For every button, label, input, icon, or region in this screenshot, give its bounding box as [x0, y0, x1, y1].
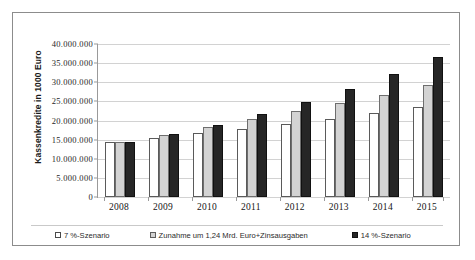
x-axis-tick-mark [412, 197, 413, 201]
bar-group [281, 44, 311, 197]
x-axis-tick-mark [192, 197, 193, 201]
x-axis-tick-label: 2011 [241, 202, 261, 218]
bar [237, 129, 247, 197]
bar [115, 142, 125, 197]
y-axis-tick-label: 30.000.000 [52, 77, 93, 87]
bar [247, 119, 257, 197]
legend-item[interactable]: 14 %-Szenario [352, 231, 411, 240]
bar-group [413, 44, 443, 197]
bar [159, 135, 169, 197]
gridline [98, 197, 450, 198]
y-axis-tick-label: 35.000.000 [52, 58, 93, 68]
bar-groups [98, 44, 450, 197]
y-axis-title-text: Kassenkredite in 1000 Euro [33, 27, 43, 187]
chart-plot-wrapper: Kassenkredite in 1000 Euro 40.000.00035.… [13, 13, 459, 245]
x-axis-tick-mark [280, 197, 281, 201]
x-axis-tick-label: 2012 [285, 202, 305, 218]
bar [369, 113, 379, 197]
legend-item[interactable]: 7 %-Szenario [55, 231, 110, 240]
chart-legend: 7 %-SzenarioZunahme um 1,24 Mrd. Euro+Zi… [31, 228, 443, 242]
bar [325, 119, 335, 197]
y-axis-title: Kassenkredite in 1000 Euro [33, 0, 47, 35]
bar [291, 111, 301, 197]
legend-label: 14 %-Szenario [361, 231, 411, 240]
bar-group [105, 44, 135, 197]
bar-group [149, 44, 179, 197]
bar [335, 103, 345, 197]
bar [213, 125, 223, 197]
bar [413, 107, 423, 197]
x-axis-tick-mark [368, 197, 369, 201]
y-axis-tick-label: 15.000.000 [52, 135, 93, 145]
bar [281, 124, 291, 197]
legend-item[interactable]: Zunahme um 1,24 Mrd. Euro+Zinsausgaben [150, 231, 308, 240]
y-axis-tick-label: 25.000.000 [52, 96, 93, 106]
y-axis-tick-label: 40.000.000 [52, 39, 93, 49]
x-axis-tick-labels: 20082009201020112012201320142015 [97, 202, 449, 218]
bar [257, 114, 267, 197]
bar [423, 85, 433, 197]
plot-area: 40.000.00035.000.00030.000.00025.000.000… [97, 44, 450, 198]
legend-swatch-icon [55, 232, 61, 238]
x-axis-tick-mark [104, 197, 105, 201]
y-axis-tick-label: 5.000.000 [56, 173, 93, 183]
bar [169, 134, 179, 197]
x-axis-tick-label: 2015 [417, 202, 437, 218]
bar [379, 95, 389, 197]
legend-divider [31, 225, 443, 226]
x-axis-tick-mark [324, 197, 325, 201]
x-axis-tick-label: 2009 [153, 202, 173, 218]
bar [389, 74, 399, 197]
bar [149, 138, 159, 197]
bar-group [325, 44, 355, 197]
bar [193, 133, 203, 197]
bar [105, 142, 115, 197]
bar [125, 142, 135, 197]
x-axis-tick-label: 2013 [329, 202, 349, 218]
bar [345, 89, 355, 197]
legend-label: Zunahme um 1,24 Mrd. Euro+Zinsausgaben [159, 231, 308, 240]
x-axis-tick-label: 2010 [197, 202, 217, 218]
bar [203, 127, 213, 197]
y-axis-tick-label: 20.000.000 [52, 116, 93, 126]
x-axis-tick-mark [443, 197, 444, 201]
y-axis-tick-label: 10.000.000 [52, 154, 93, 164]
x-axis-tick-mark [148, 197, 149, 201]
legend-swatch-icon [150, 232, 156, 238]
bar-group [193, 44, 223, 197]
bar-group [369, 44, 399, 197]
bar [433, 57, 443, 197]
x-axis-tick-label: 2014 [373, 202, 393, 218]
chart-frame: Kassenkredite in 1000 Euro 40.000.00035.… [12, 12, 460, 246]
bar [301, 102, 311, 197]
y-axis-tick-label: 0 [88, 192, 93, 202]
legend-swatch-icon [352, 232, 358, 238]
legend-label: 7 %-Szenario [64, 231, 110, 240]
x-axis-tick-label: 2008 [109, 202, 129, 218]
bar-group [237, 44, 267, 197]
x-axis-tick-mark [236, 197, 237, 201]
